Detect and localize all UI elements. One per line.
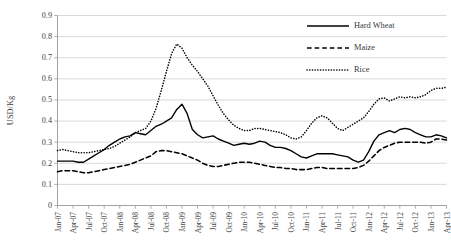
- line-chart: 00.10.20.30.40.50.60.70.80.9 Jan-07Apr-0…: [0, 0, 451, 252]
- axis-lines: [58, 16, 447, 206]
- x-tick-label: Jan-08: [116, 212, 125, 232]
- x-tick-label: Jan-09: [178, 212, 187, 232]
- y-tick-label: 0.2: [42, 159, 52, 168]
- x-tick-label: Apr-08: [131, 212, 140, 234]
- legend-label-maize: Maize: [354, 43, 375, 52]
- x-tick-label: Jul-09: [209, 212, 218, 231]
- y-axis-tick-labels: 00.10.20.30.40.50.60.70.80.9: [42, 11, 52, 210]
- x-tick-label: Apr-09: [194, 212, 203, 234]
- x-tick-label: Jan-07: [54, 212, 63, 232]
- x-tick-label: Jul-10: [271, 212, 280, 231]
- y-tick-label: 0.7: [42, 53, 52, 62]
- x-tick-label: Oct-12: [411, 212, 420, 233]
- x-tick-label: Oct-10: [287, 212, 296, 233]
- x-tick-label: Apr-07: [69, 212, 78, 234]
- series-line-hard-wheat: [58, 104, 447, 162]
- x-tick-label: Jan-10: [240, 212, 249, 232]
- y-tick-label: 0.8: [42, 32, 52, 41]
- x-axis-ticks: [58, 206, 447, 209]
- y-tick-label: 0: [48, 201, 52, 210]
- x-tick-label: Oct-08: [162, 212, 171, 233]
- legend-label-hard-wheat: Hard Wheat: [354, 21, 395, 30]
- x-tick-label: Jul-07: [85, 212, 94, 231]
- x-tick-label: Jan-11: [302, 212, 311, 232]
- y-tick-label: 0.1: [42, 180, 52, 189]
- data-series: [58, 44, 447, 173]
- chart-container: 00.10.20.30.40.50.60.70.80.9 Jan-07Apr-0…: [0, 0, 451, 252]
- gridlines: [58, 16, 447, 185]
- chart-legend: Hard WheatMaizeRice: [307, 21, 395, 74]
- x-tick-label: Jan-13: [427, 212, 436, 232]
- y-tick-label: 0.9: [42, 11, 52, 20]
- y-tick-label: 0.6: [42, 74, 52, 83]
- x-axis-tick-labels: Jan-07Apr-07Jul-07Oct-07Jan-08Apr-08Jul-…: [54, 212, 451, 234]
- y-tick-label: 0.3: [42, 138, 52, 147]
- x-tick-label: Apr-11: [318, 212, 327, 233]
- x-tick-label: Jul-12: [396, 212, 405, 231]
- x-tick-label: Oct-11: [349, 212, 358, 233]
- x-tick-label: Jan-12: [365, 212, 374, 232]
- x-tick-label: Jul-11: [334, 212, 343, 231]
- y-tick-label: 0.5: [42, 95, 52, 104]
- legend-label-rice: Rice: [354, 65, 370, 74]
- y-axis-title: USD/Kg: [6, 95, 15, 125]
- x-tick-label: Oct-09: [225, 212, 234, 233]
- x-tick-label: Oct-07: [100, 212, 109, 233]
- y-axis-ticks: [54, 16, 57, 206]
- series-line-rice: [58, 44, 447, 153]
- y-tick-label: 0.4: [42, 116, 52, 125]
- x-tick-label: Apr-12: [380, 212, 389, 234]
- x-tick-label: Apr-13: [443, 212, 451, 234]
- x-tick-label: Apr-10: [256, 212, 265, 234]
- x-tick-label: Jul-08: [147, 212, 156, 231]
